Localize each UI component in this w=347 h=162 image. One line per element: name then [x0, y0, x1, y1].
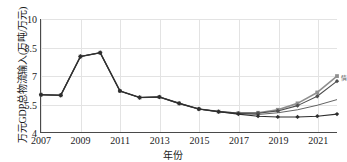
x-tick-label: 2021: [308, 132, 328, 146]
data-point-marker: [295, 115, 299, 119]
x-tick-label: 2019: [269, 132, 289, 146]
x-tick-label: 2013: [150, 132, 170, 146]
x-tick-label: 2015: [189, 132, 209, 146]
data-point-marker: [335, 112, 339, 116]
data-point-marker: [335, 74, 339, 78]
series-layer: [41, 19, 337, 132]
plot-area: 45.578.510 20072009201120132015201720192…: [40, 19, 337, 133]
series-1: [39, 51, 339, 115]
y-axis-title: 万元GDP总物流输入(万吨/万元): [14, 3, 28, 143]
data-point-marker: [315, 114, 319, 118]
y-tick-label: 10: [27, 14, 41, 25]
data-point-marker: [276, 115, 280, 119]
y-tick-label: 7: [32, 71, 41, 82]
x-tick-label: 2009: [71, 132, 91, 146]
y-tick-label: 5.5: [25, 99, 42, 110]
x-axis-title: 年份: [0, 147, 345, 162]
x-tick-label: 2017: [229, 132, 249, 146]
data-point-marker: [315, 91, 319, 95]
x-tick-label: 2011: [110, 132, 130, 146]
series-line: [41, 53, 337, 113]
series-4: [39, 51, 339, 120]
series-line: [41, 53, 337, 113]
series-end-label: 情: [341, 72, 347, 81]
y-tick-label: 8.5: [25, 42, 42, 53]
x-tick-label: 2007: [31, 132, 51, 146]
